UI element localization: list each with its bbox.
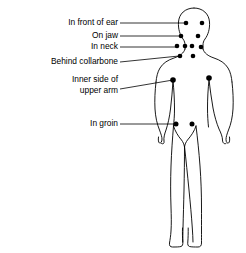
- node-neck-3: [190, 44, 195, 49]
- node-jaw-left: [179, 34, 184, 39]
- label-in-groin: In groin: [90, 118, 118, 128]
- node-jaw-right: [196, 34, 201, 39]
- node-arm-right: [206, 75, 212, 81]
- leg-left-inner: [183, 147, 185, 242]
- leg-right-outer: [188, 126, 202, 247]
- lymph-node-dots: [170, 21, 212, 127]
- leg-right-inner: [185, 147, 193, 242]
- label-texts: In front of earOn jawIn neckBehind colla…: [51, 17, 119, 128]
- node-collarbone-left: [178, 54, 183, 59]
- diagram-canvas: In front of earOn jawIn neckBehind colla…: [0, 0, 246, 253]
- node-neck-2: [183, 44, 188, 49]
- label-line: upper arm: [80, 85, 118, 95]
- head-outline: [194, 8, 210, 49]
- arm-left-inner: [162, 81, 174, 144]
- node-collarbone-right: [191, 54, 196, 59]
- trunk-left-side: [173, 81, 175, 126]
- label-line: On jaw: [92, 30, 119, 40]
- arm-left-outer: [155, 82, 162, 143]
- trunk-right-side: [208, 80, 210, 127]
- label-line: Behind collarbone: [51, 56, 118, 66]
- leg-left-outer: [169, 126, 182, 247]
- node-neck-4: [199, 45, 204, 50]
- label-behind-collarbone: Behind collarbone: [51, 56, 118, 66]
- leader-line-inner-side-of-upper-arm: [120, 80, 173, 89]
- node-ear-right: [200, 21, 205, 26]
- body-figure: [155, 8, 233, 247]
- head-outline-left: [178, 8, 194, 49]
- node-ear-left: [184, 21, 189, 26]
- node-groin-left: [174, 122, 179, 127]
- label-line: In front of ear: [68, 17, 118, 27]
- node-arm-left: [170, 77, 176, 83]
- arm-right-inner: [209, 80, 226, 144]
- leader-line-behind-collarbone: [120, 56, 179, 62]
- arm-right-outer: [226, 82, 233, 143]
- label-in-front-of-ear: In front of ear: [68, 17, 118, 27]
- label-inner-side-of-upper-arm: Inner side ofupper arm: [72, 74, 119, 95]
- leader-lines: [120, 23, 185, 124]
- label-line: Inner side of: [72, 74, 119, 84]
- node-groin-right: [190, 122, 195, 127]
- label-on-jaw: On jaw: [92, 30, 119, 40]
- label-in-neck: In neck: [91, 41, 119, 51]
- node-neck-1: [175, 44, 180, 49]
- label-line: In groin: [90, 118, 118, 128]
- lymph-node-diagram: In front of earOn jawIn neckBehind colla…: [0, 0, 246, 253]
- crotch-outline: [174, 126, 197, 147]
- label-line: In neck: [91, 41, 119, 51]
